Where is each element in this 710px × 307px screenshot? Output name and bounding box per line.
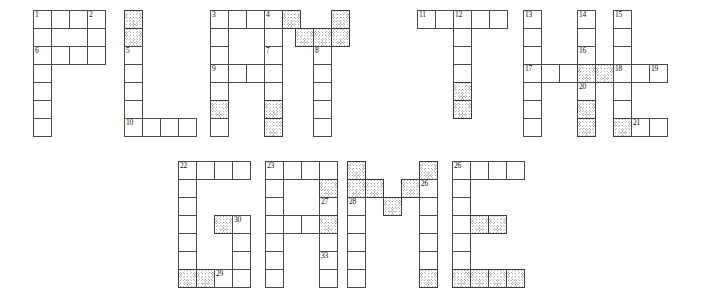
answer-square[interactable] xyxy=(452,215,471,234)
answer-square[interactable] xyxy=(419,233,438,252)
answer-square[interactable]: 5 xyxy=(124,46,143,65)
answer-square[interactable] xyxy=(453,64,472,83)
answer-square[interactable] xyxy=(488,161,507,180)
answer-square[interactable] xyxy=(319,233,338,252)
answer-square[interactable]: 7 xyxy=(264,46,283,65)
answer-square[interactable] xyxy=(265,179,284,198)
answer-square[interactable] xyxy=(178,233,197,252)
answer-square[interactable] xyxy=(178,197,197,216)
answer-square[interactable]: 15 xyxy=(613,10,632,29)
answer-square[interactable]: 26 xyxy=(452,161,471,180)
answer-square[interactable]: 10 xyxy=(124,118,143,137)
answer-square[interactable]: 8 xyxy=(313,46,332,65)
answer-square[interactable] xyxy=(613,100,632,119)
answer-square[interactable]: 9 xyxy=(210,64,229,83)
answer-square[interactable]: 3 xyxy=(210,10,229,29)
answer-square[interactable]: 12 xyxy=(453,10,472,29)
answer-square[interactable] xyxy=(523,46,542,65)
answer-square[interactable] xyxy=(347,233,366,252)
answer-square[interactable] xyxy=(210,118,229,137)
answer-square[interactable] xyxy=(453,28,472,47)
answer-square[interactable]: 17 xyxy=(523,64,542,83)
answer-square[interactable]: 26 xyxy=(419,179,438,198)
answer-square[interactable] xyxy=(452,251,471,270)
answer-square[interactable] xyxy=(453,46,472,65)
answer-square[interactable] xyxy=(301,215,320,234)
answer-square[interactable] xyxy=(214,161,233,180)
answer-square[interactable] xyxy=(228,10,247,29)
answer-square[interactable] xyxy=(613,46,632,65)
answer-square[interactable] xyxy=(69,10,88,29)
answer-square[interactable] xyxy=(523,100,542,119)
answer-square[interactable] xyxy=(265,269,284,288)
answer-square[interactable] xyxy=(124,100,143,119)
answer-square[interactable]: 27 xyxy=(319,197,338,216)
answer-square[interactable] xyxy=(33,64,52,83)
answer-square[interactable] xyxy=(210,82,229,101)
answer-square[interactable] xyxy=(283,215,302,234)
answer-square[interactable] xyxy=(471,10,490,29)
answer-square[interactable]: 19 xyxy=(649,64,668,83)
answer-square[interactable] xyxy=(452,233,471,252)
answer-square[interactable] xyxy=(246,64,265,83)
answer-square[interactable] xyxy=(264,28,283,47)
answer-square[interactable] xyxy=(196,161,215,180)
answer-square[interactable] xyxy=(210,28,229,47)
answer-square[interactable] xyxy=(649,118,668,137)
answer-square[interactable]: 28 xyxy=(347,197,366,216)
answer-square[interactable] xyxy=(489,10,508,29)
answer-square[interactable] xyxy=(541,64,560,83)
answer-square[interactable] xyxy=(577,28,596,47)
answer-square[interactable]: 13 xyxy=(523,10,542,29)
answer-square[interactable] xyxy=(69,46,88,65)
answer-square[interactable] xyxy=(523,118,542,137)
answer-square[interactable] xyxy=(232,233,251,252)
answer-square[interactable] xyxy=(228,64,247,83)
answer-square[interactable] xyxy=(319,161,338,180)
answer-square[interactable] xyxy=(419,251,438,270)
answer-square[interactable] xyxy=(265,215,284,234)
answer-square[interactable]: 30 xyxy=(232,215,251,234)
answer-square[interactable] xyxy=(283,161,302,180)
answer-square[interactable]: 2 xyxy=(87,10,106,29)
answer-square[interactable] xyxy=(313,118,332,137)
answer-square[interactable] xyxy=(178,215,197,234)
answer-square[interactable] xyxy=(232,251,251,270)
answer-square[interactable] xyxy=(142,118,161,137)
answer-square[interactable] xyxy=(51,46,70,65)
answer-square[interactable] xyxy=(232,269,251,288)
answer-square[interactable] xyxy=(523,82,542,101)
answer-square[interactable] xyxy=(470,161,489,180)
answer-square[interactable] xyxy=(347,269,366,288)
answer-square[interactable] xyxy=(264,82,283,101)
answer-square[interactable] xyxy=(347,215,366,234)
answer-square[interactable] xyxy=(419,197,438,216)
answer-square[interactable] xyxy=(87,28,106,47)
answer-square[interactable]: 11 xyxy=(417,10,436,29)
answer-square[interactable] xyxy=(33,28,52,47)
answer-square[interactable] xyxy=(51,10,70,29)
answer-square[interactable] xyxy=(265,251,284,270)
answer-square[interactable] xyxy=(435,10,454,29)
answer-square[interactable]: 14 xyxy=(577,10,596,29)
answer-square[interactable]: 33 xyxy=(319,251,338,270)
answer-square[interactable] xyxy=(124,82,143,101)
answer-square[interactable] xyxy=(506,161,525,180)
answer-square[interactable] xyxy=(313,82,332,101)
answer-square[interactable]: 16 xyxy=(577,46,596,65)
answer-square[interactable] xyxy=(301,161,320,180)
answer-square[interactable]: 20 xyxy=(577,82,596,101)
answer-square[interactable] xyxy=(210,46,229,65)
answer-square[interactable] xyxy=(313,100,332,119)
answer-square[interactable] xyxy=(419,215,438,234)
answer-square[interactable] xyxy=(452,179,471,198)
answer-square[interactable] xyxy=(33,82,52,101)
answer-square[interactable] xyxy=(246,10,265,29)
answer-square[interactable] xyxy=(178,251,197,270)
answer-square[interactable] xyxy=(613,82,632,101)
answer-square[interactable]: 23 xyxy=(265,161,284,180)
answer-square[interactable] xyxy=(319,269,338,288)
answer-square[interactable]: 29 xyxy=(214,269,233,288)
answer-square[interactable]: 22 xyxy=(178,161,197,180)
answer-square[interactable]: 4 xyxy=(264,10,283,29)
